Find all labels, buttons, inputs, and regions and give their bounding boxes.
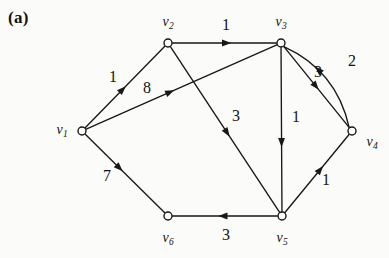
node-label-v4: v4 <box>367 134 378 150</box>
e-v3-v5-weight-label: 1 <box>292 108 300 126</box>
e-v3-v4-weight-label: 3 <box>314 63 322 81</box>
node-label-v1: v1 <box>57 122 68 138</box>
e-v1-v3-line <box>86 45 277 129</box>
e-v2-v5-weight-label: 3 <box>232 107 240 125</box>
e-v2-v5-arrowhead-icon <box>222 127 230 137</box>
e-v1-v6-line <box>85 134 164 213</box>
node-v6[interactable] <box>164 212 172 220</box>
e-v5-v4-weight-label: 1 <box>322 171 330 189</box>
node-v2[interactable] <box>164 39 172 47</box>
e-v4-v3-weight-label: 2 <box>348 52 356 70</box>
node-v3[interactable] <box>277 39 285 47</box>
node-v1[interactable] <box>78 127 86 135</box>
graph-figure: (a) 1871331213v1v2v3v4v5v6 <box>0 0 389 258</box>
node-v4[interactable] <box>348 127 356 135</box>
e-v1-v3-arrowhead-icon <box>164 90 174 97</box>
e-v1-v6-weight-label: 7 <box>103 167 111 185</box>
e-v2-v3-arrowhead-icon <box>222 40 231 47</box>
e-v5-v6-weight-label: 3 <box>222 226 230 244</box>
node-label-v3: v3 <box>276 14 287 30</box>
e-v1-v3-weight-label: 8 <box>143 79 151 97</box>
e-v1-v2-weight-label: 1 <box>109 68 117 86</box>
e-v2-v3-weight-label: 1 <box>222 16 230 34</box>
node-v5[interactable] <box>278 212 286 220</box>
node-label-v2: v2 <box>163 14 174 30</box>
e-v3-v5-line <box>281 48 282 212</box>
node-label-v6: v6 <box>163 230 174 246</box>
node-label-v5: v5 <box>277 230 288 246</box>
e-v5-v6-arrowhead-icon <box>218 213 227 220</box>
edges-layer <box>85 40 349 220</box>
e-v3-v5-arrowhead-icon <box>278 138 285 147</box>
e-v5-v4-line <box>285 135 349 213</box>
